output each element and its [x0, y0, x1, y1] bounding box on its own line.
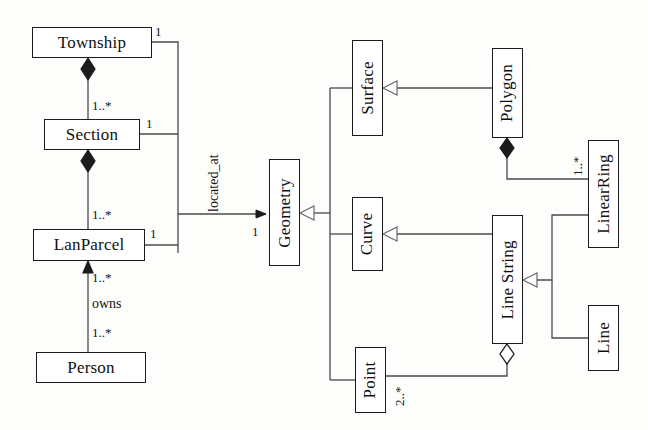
class-box-person[interactable]: Person — [36, 352, 146, 383]
class-label-linearring: LinearRing — [594, 154, 614, 233]
multiplicity-township-one: 1 — [155, 24, 162, 40]
connector-township-bus — [152, 42, 178, 253]
composition-diamonds — [81, 58, 514, 172]
connector-linestring-point — [386, 360, 507, 376]
aggregation-diamonds — [500, 344, 514, 364]
class-box-geometry[interactable]: Geometry — [269, 159, 300, 266]
class-label-point: Point — [361, 362, 381, 399]
class-label-polygon: Polygon — [498, 64, 518, 122]
generalization-triangle-linestring — [523, 273, 537, 287]
connector-line-linestring — [552, 280, 588, 338]
class-label-line: Line — [594, 322, 614, 354]
class-label-curve: Curve — [358, 213, 378, 256]
multiplicity-linearring-star: 1..* — [570, 157, 586, 177]
multiplicity-owns-upper: 1..* — [92, 270, 112, 286]
class-label-surface: Surface — [358, 61, 378, 114]
class-box-surface[interactable]: Surface — [352, 40, 383, 136]
generalization-triangle-geometry — [300, 206, 314, 220]
class-box-linearring[interactable]: LinearRing — [588, 140, 619, 248]
connector-linearring-linestring — [537, 215, 588, 280]
multiplicity-geometry-one: 1 — [252, 224, 259, 240]
class-label-geometry: Geometry — [275, 178, 295, 248]
uml-class-diagram: Township Section LanParcel Person Geomet… — [0, 0, 648, 430]
multiplicity-section-upper: 1..* — [92, 98, 112, 114]
association-label-owns: owns — [92, 296, 122, 312]
class-box-section[interactable]: Section — [44, 119, 140, 150]
multiplicity-lanparcel-upper: 1..* — [92, 207, 112, 223]
class-box-township[interactable]: Township — [32, 27, 152, 58]
class-box-curve[interactable]: Curve — [352, 197, 383, 271]
class-label-section: Section — [66, 125, 118, 145]
multiplicity-section-one: 1 — [146, 116, 153, 132]
association-label-located-at: located_at — [206, 154, 222, 212]
class-box-lanparcel[interactable]: LanParcel — [33, 229, 145, 261]
multiplicity-lanparcel-one: 1 — [150, 226, 157, 242]
class-label-township: Township — [58, 33, 126, 53]
composition-diamond-polygon — [500, 138, 514, 158]
class-box-linestring[interactable]: Line String — [492, 215, 523, 344]
class-box-point[interactable]: Point — [355, 347, 386, 413]
composition-diamond-township — [81, 58, 95, 80]
class-label-person: Person — [67, 358, 114, 378]
aggregation-diamond-linestring — [500, 344, 514, 364]
multiplicity-owns-lower: 1..* — [92, 325, 112, 341]
generalization-triangle-surface — [383, 81, 397, 95]
class-label-linestring: Line String — [498, 240, 518, 319]
multiplicity-point-star: 2..* — [392, 387, 408, 407]
generalization-triangle-curve — [383, 227, 397, 241]
composition-diamond-section — [81, 150, 95, 172]
class-box-polygon[interactable]: Polygon — [492, 48, 523, 138]
class-box-line[interactable]: Line — [588, 305, 619, 371]
class-label-lanparcel: LanParcel — [54, 235, 125, 255]
